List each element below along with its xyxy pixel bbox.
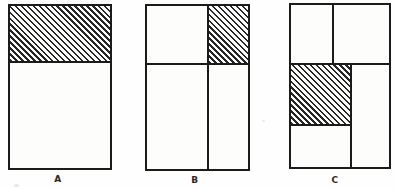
panel-c-label: C	[325, 175, 345, 185]
panel-b-vertical-divider	[207, 6, 209, 169]
panel-c-shaded-middle-left-cell	[291, 65, 350, 124]
panel-b-horizontal-divider	[147, 63, 248, 65]
panel-b-label: B	[185, 175, 205, 185]
panel-c-middle-horizontal-divider	[291, 124, 352, 126]
panel-a-label: A	[48, 174, 68, 184]
scan-noise-dot	[262, 120, 265, 122]
panel-a-shaded-top-region	[10, 6, 110, 63]
scan-noise-dot	[14, 184, 19, 187]
figure-canvas: A B C	[0, 0, 396, 189]
panel-a	[8, 4, 112, 170]
panel-b-shaded-top-right-cell	[209, 6, 248, 63]
panel-b	[145, 4, 250, 171]
panel-a-unshaded-bottom-region	[10, 65, 110, 168]
panel-c-top-row-vertical-divider	[332, 5, 334, 63]
panel-c-main-vertical-divider	[350, 63, 352, 167]
panel-c	[289, 3, 391, 169]
panel-c-top-horizontal-divider	[291, 63, 389, 65]
